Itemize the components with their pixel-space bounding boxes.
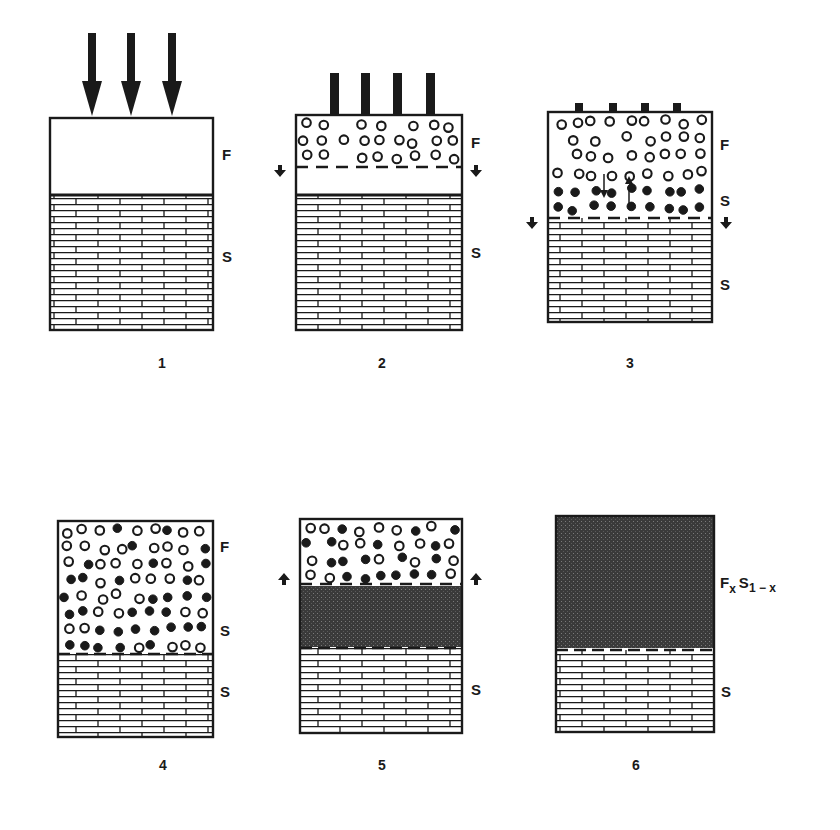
film-atom-icon [133,560,142,569]
substrate-atom-icon [149,559,158,568]
substrate-atom-icon [571,188,580,197]
substrate-atom-icon [432,554,441,563]
film-atom-icon [118,545,127,554]
film-atom-icon [96,526,105,535]
substrate-atom-icon [339,557,348,566]
substrate-atom-icon [84,560,93,569]
substrate-atom-icon [392,571,401,580]
substrate-atom-icon [665,204,674,213]
substrate-region [556,650,714,732]
film-atom-icon [628,151,637,160]
substrate-atom-icon [338,525,347,534]
substrate-atom-icon [128,541,137,550]
film-atom-icon [80,624,89,633]
compound-label: FxS1 − x [720,574,776,596]
film-atom-icon [65,624,74,633]
film-atom-icon [308,557,317,566]
film-atom-icon [392,526,401,535]
substrate-region [50,195,213,330]
substrate-atom-icon [646,203,655,212]
film-atom-icon [622,132,631,141]
film-atom-icon [96,560,105,569]
film-atom-icon [179,546,188,555]
film-atom-icon [355,528,364,537]
film-atom-icon [77,591,86,600]
substrate-atom-icon [114,628,123,637]
deposition-bar-icon [426,73,435,115]
film-atom-icon [81,542,90,551]
layer-label: S [720,276,730,293]
panel-number: 6 [632,757,640,773]
side-arrow-right-icon [720,217,732,229]
deposition-bar-icon [361,73,370,115]
panel-number: 1 [158,355,166,371]
film-atom-icon [356,539,365,548]
film-atom-icon [179,528,188,537]
film-atom-icon [131,574,140,583]
film-atom-icon [306,524,315,533]
film-atom-icon [358,154,367,163]
substrate-atom-icon [568,207,577,216]
film-atom-icon [151,524,160,533]
film-atom-icon [450,155,459,164]
film-atom-icon [375,136,384,145]
side-arrow-left-icon [278,573,290,585]
panel-number: 2 [378,355,386,371]
film-atom-icon [320,121,329,130]
layer-label: F [471,134,480,151]
film-atom-icon [162,559,171,568]
film-atom-icon [375,523,384,532]
deposition-bar-icon [393,73,402,115]
substrate-atom-icon [163,526,172,535]
film-atom-icon [163,542,172,551]
film-atom-icon [411,151,420,160]
deposition-stub-icon [609,103,617,112]
substrate-atom-icon [679,206,688,215]
film-atom-icon [409,122,418,131]
substrate-atom-icon [60,593,69,602]
side-arrow-left-icon [274,165,286,177]
film-atom-icon [320,150,329,159]
film-atom-icon [604,154,613,163]
film-atom-icon [166,574,175,583]
film-atom-icon [431,151,440,160]
layer-label: F [720,136,729,153]
substrate-atom-icon [607,189,616,198]
deposition-arrow-icon [127,33,135,83]
film-atom-icon [99,595,108,604]
film-atom-icon [608,172,617,181]
film-atom-icon [377,122,386,131]
substrate-region [58,654,213,737]
substrate-atom-icon [201,544,210,553]
deposition-stub-icon [575,103,583,112]
substrate-atom-icon [150,626,159,635]
film-atom-icon [115,609,124,618]
panel-2: FS2 [274,73,482,371]
substrate-atom-icon [377,571,386,580]
film-atom-icon [135,595,144,604]
film-atom-icon [198,609,207,618]
film-atom-icon [661,115,670,124]
film-atom-icon [646,137,655,146]
substrate-atom-icon [302,539,311,548]
film-atom-icon [147,574,156,583]
substrate-atom-icon [431,542,440,551]
film-atom-icon [575,170,584,179]
film-atom-icon [303,151,312,160]
layer-label: S [222,248,232,265]
panel-5: S5 [278,519,482,773]
side-arrow-right-icon [470,573,482,585]
film-atom-icon [416,539,425,548]
film-atom-icon [574,119,583,128]
film-atom-icon [320,524,329,533]
substrate-atom-icon [197,622,206,631]
panels-group: FS1FS2FSS3FSS4S5SFxS1 − x6 [50,33,776,773]
panel-4: FSS4 [58,521,230,773]
substrate-atom-icon [677,188,686,197]
film-atom-icon [628,116,637,125]
film-atom-icon [326,574,335,583]
film-atom-icon [340,135,349,144]
substrate-region [300,648,462,733]
film-atom-icon [587,152,596,161]
substrate-atom-icon [554,203,563,212]
